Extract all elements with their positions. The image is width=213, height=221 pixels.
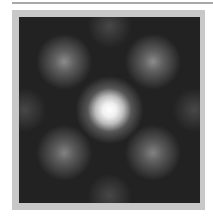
intensity-pattern-image: [19, 17, 200, 203]
top-divider: [12, 2, 213, 4]
